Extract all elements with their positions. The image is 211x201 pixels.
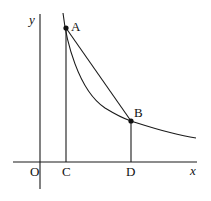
origin-label: O (30, 164, 39, 179)
point-c-label: C (62, 164, 71, 179)
point-b (128, 118, 133, 123)
point-b-label: B (134, 105, 143, 120)
x-axis-label: x (189, 163, 196, 178)
point-a-label: A (71, 19, 81, 34)
diagram-canvas: y x O A B C D (0, 0, 211, 201)
chord-ab (66, 28, 131, 121)
y-axis-label: y (27, 12, 35, 27)
point-d-label: D (126, 164, 135, 179)
point-a (63, 25, 68, 30)
